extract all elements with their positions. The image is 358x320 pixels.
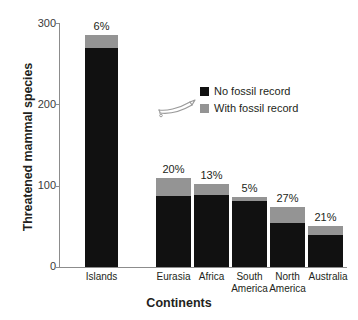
threatened-mammal-species-chart: Threatened mammal species 300 200 100 0 … — [0, 0, 358, 320]
y-axis-tick-mark-0 — [56, 267, 60, 268]
x-label-islands: Islands — [71, 271, 132, 283]
y-axis-tick-mark-100 — [56, 186, 60, 187]
bar-islands: 6% — [85, 35, 118, 267]
bar-eurasia: 20% — [156, 178, 191, 267]
bar-australia: 21% — [308, 226, 343, 267]
bar-eurasia-pct-label: 20% — [156, 163, 191, 175]
y-axis-tick-mark-300 — [56, 23, 60, 24]
bar-north-america-pct-label: 27% — [270, 192, 305, 204]
bar-africa: 13% — [194, 184, 229, 267]
y-tick-200: 200 — [0, 99, 56, 110]
y-tick-100: 100 — [0, 180, 56, 191]
y-tick-300: 300 — [0, 18, 56, 29]
bar-south-america-pct-label: 5% — [232, 182, 267, 194]
legend-swatch-no-fossil-record — [200, 87, 209, 96]
x-axis-title: Continents — [0, 296, 358, 310]
y-tick-0-label: 0 — [4, 261, 56, 272]
legend-label-no-fossil-record: No fossil record — [214, 86, 290, 97]
bar-africa-with-fossil-segment — [194, 184, 229, 195]
bar-australia-no-fossil-segment — [308, 235, 343, 267]
x-label-australia-line-1: Australia — [302, 271, 354, 283]
x-axis-line — [59, 267, 347, 268]
legend-item-no-fossil-record: No fossil record — [200, 84, 298, 99]
y-tick-100-label: 100 — [4, 180, 56, 191]
legend-item-with-fossil-record: With fossil record — [200, 101, 298, 116]
y-axis-title: Threatened mammal species — [21, 27, 35, 267]
legend-swatch-with-fossil-record — [200, 104, 209, 113]
x-label-australia: Australia — [302, 271, 354, 283]
y-axis-tick-mark-200 — [56, 104, 60, 105]
bar-south-america-no-fossil-segment — [232, 201, 267, 267]
y-axis-line — [59, 23, 60, 268]
bar-africa-pct-label: 13% — [194, 169, 229, 181]
fossil-bone-icon — [156, 97, 200, 119]
bar-australia-with-fossil-segment — [308, 226, 343, 235]
legend-label-with-fossil-record: With fossil record — [214, 103, 298, 114]
bar-islands-no-fossil-segment — [85, 48, 118, 267]
bar-south-america: 5% — [232, 197, 267, 267]
y-tick-200-label: 200 — [4, 99, 56, 110]
bar-islands-with-fossil-segment — [85, 35, 118, 49]
x-label-north-america-line-2: America — [264, 283, 311, 295]
bar-north-america-with-fossil-segment — [270, 207, 305, 223]
y-tick-0: 0 — [0, 261, 56, 272]
bar-north-america-no-fossil-segment — [270, 223, 305, 267]
bar-north-america: 27% — [270, 207, 305, 267]
bar-eurasia-no-fossil-segment — [156, 196, 191, 267]
bar-islands-pct-label: 6% — [85, 20, 118, 32]
bar-eurasia-with-fossil-segment — [156, 178, 191, 196]
x-label-islands-line-1: Islands — [71, 271, 132, 283]
bar-australia-pct-label: 21% — [308, 211, 343, 223]
chart-legend: No fossil record With fossil record — [200, 84, 298, 118]
bar-africa-no-fossil-segment — [194, 195, 229, 267]
y-tick-300-label: 300 — [4, 18, 56, 29]
